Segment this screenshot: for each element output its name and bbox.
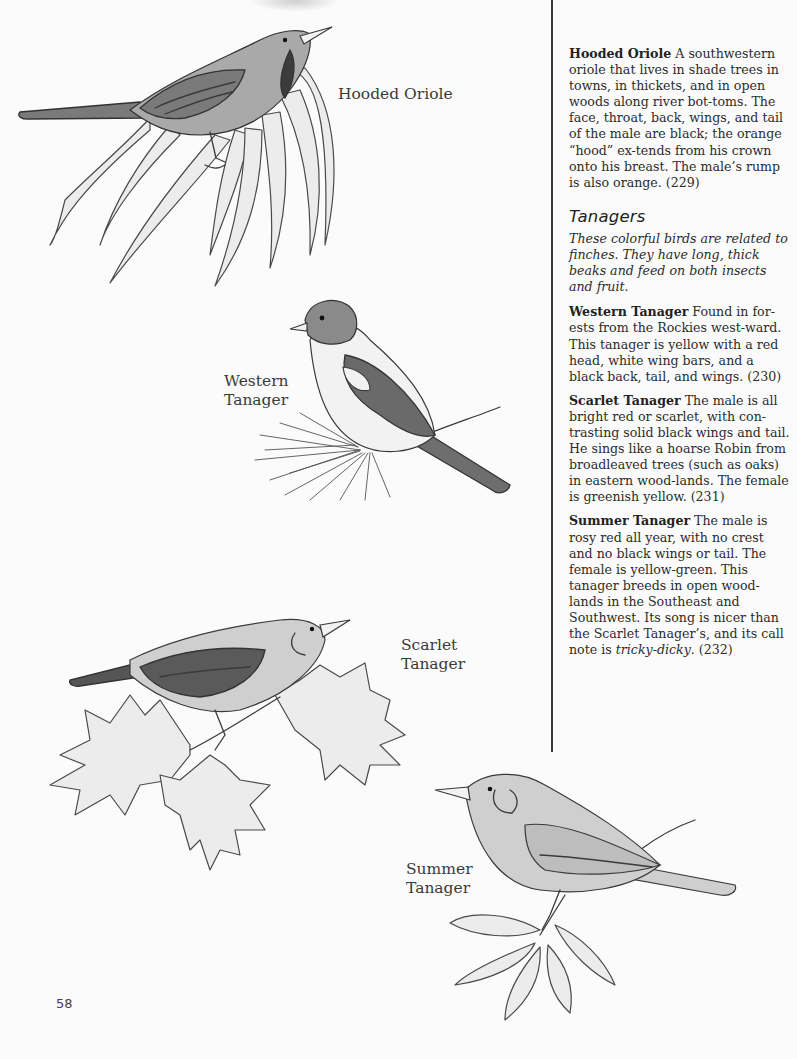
species-name: Western Tanager (569, 304, 688, 319)
section-intro: These colorful birds are related to finc… (569, 231, 791, 295)
species-description: The male is all bright red or scarlet, w… (569, 393, 790, 505)
species-name: Hooded Oriole (569, 46, 671, 61)
caption-line: Hooded Oriole (338, 85, 453, 103)
section-heading: Tanagers (569, 209, 791, 225)
caption-line: Scarlet (401, 636, 465, 655)
call-note-emphasis: tricky-dicky (616, 642, 691, 657)
caption-line: Western (224, 372, 289, 391)
species-name: Summer Tanager (569, 513, 690, 528)
species-name: Scarlet Tanager (569, 393, 681, 408)
species-description: The male is rosy red all year, with no c… (569, 513, 784, 657)
western-tanager-entry: Western Tanager Found in for-ests from t… (569, 304, 791, 384)
species-description: A southwestern oriole that lives in shad… (569, 46, 783, 190)
species-text-column: Hooded Oriole A southwestern oriole that… (569, 46, 791, 666)
column-divider (551, 0, 553, 752)
species-description-end: . (232) (691, 642, 733, 657)
hooded-oriole-entry: Hooded Oriole A southwestern oriole that… (569, 46, 791, 191)
caption-line: Tanager (224, 391, 289, 410)
scarlet-tanager-caption: Scarlet Tanager (401, 636, 465, 674)
scarlet-tanager-entry: Scarlet Tanager The male is all bright r… (569, 393, 791, 506)
caption-line: Summer (406, 860, 473, 879)
summer-tanager-illustration (430, 765, 750, 1025)
page-number: 58 (56, 996, 73, 1011)
caption-line: Tanager (406, 879, 473, 898)
summer-tanager-entry: Summer Tanager The male is rosy red all … (569, 513, 791, 658)
hooded-oriole-illustration (0, 0, 470, 290)
caption-line: Tanager (401, 655, 465, 674)
scarlet-tanager-illustration (40, 605, 420, 875)
western-tanager-caption: Western Tanager (224, 372, 289, 410)
summer-tanager-caption: Summer Tanager (406, 860, 473, 898)
hooded-oriole-caption: Hooded Oriole (338, 85, 453, 104)
